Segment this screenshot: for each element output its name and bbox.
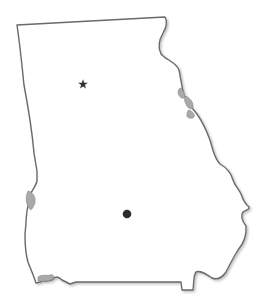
- circle-dot-icon: [123, 210, 132, 219]
- state-outline: [17, 17, 249, 290]
- state-map: [0, 0, 276, 302]
